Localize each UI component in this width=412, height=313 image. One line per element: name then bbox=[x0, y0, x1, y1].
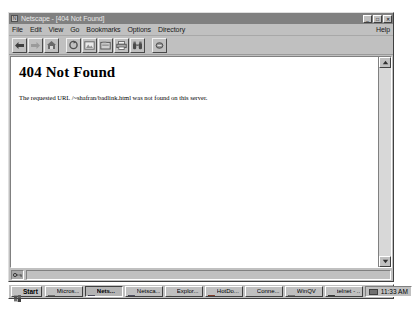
netscape-icon: N bbox=[88, 288, 95, 295]
menu-item-help[interactable]: Help bbox=[376, 26, 390, 34]
browser-window: N Netscape - [404 Not Found] _ □ ✕ File … bbox=[8, 12, 394, 282]
scroll-up-arrow-icon bbox=[382, 60, 389, 65]
open-button[interactable] bbox=[98, 38, 113, 53]
broken-key-icon[interactable] bbox=[11, 270, 24, 280]
svg-text:N: N bbox=[90, 295, 94, 297]
word-icon: W bbox=[48, 288, 55, 295]
stop-icon bbox=[154, 41, 165, 50]
winqvt-icon bbox=[288, 288, 295, 295]
minimize-button[interactable]: _ bbox=[363, 15, 372, 23]
menu-item-view[interactable]: View bbox=[49, 26, 64, 34]
window-title: Netscape - [404 Not Found] bbox=[21, 15, 363, 23]
hotdog-icon bbox=[208, 288, 215, 295]
close-button[interactable]: ✕ bbox=[383, 15, 392, 23]
back-button[interactable] bbox=[12, 38, 27, 53]
page-canvas: 404 Not Found The requested URL /~shafra… bbox=[11, 57, 378, 267]
telnet-icon bbox=[328, 288, 335, 295]
home-button[interactable] bbox=[44, 38, 59, 53]
svg-text:N: N bbox=[130, 295, 134, 297]
task-button-label: WinQV bbox=[297, 288, 316, 295]
scroll-down-arrow-icon bbox=[382, 259, 389, 264]
forward-button[interactable] bbox=[28, 38, 43, 53]
scroll-down-button[interactable] bbox=[379, 256, 391, 267]
print-button[interactable] bbox=[114, 38, 129, 53]
scrollbar-track[interactable] bbox=[379, 68, 391, 256]
task-button-connection[interactable]: Conne... bbox=[245, 286, 283, 297]
svg-text:W: W bbox=[49, 295, 54, 297]
taskbar: Start W Micros... N Nets... N Netsca... … bbox=[8, 284, 394, 299]
task-button-hotdog[interactable]: HotDo... bbox=[205, 286, 243, 297]
task-button-label: Micros... bbox=[57, 288, 80, 295]
maximize-button[interactable]: □ bbox=[373, 15, 382, 23]
modem-icon[interactable] bbox=[369, 289, 378, 295]
menu-item-bookmarks[interactable]: Bookmarks bbox=[86, 26, 120, 34]
forward-arrow-icon bbox=[30, 41, 41, 50]
task-button-telnet[interactable]: telnet - ... bbox=[325, 286, 363, 297]
menu-item-edit[interactable]: Edit bbox=[30, 26, 42, 34]
task-button-label: telnet - ... bbox=[337, 288, 360, 295]
printer-icon bbox=[116, 41, 127, 50]
task-button-label: Explor... bbox=[177, 288, 199, 295]
page-body-text: The requested URL /~shafran/badlink.html… bbox=[19, 93, 370, 102]
windows-logo-icon bbox=[14, 288, 21, 295]
home-icon bbox=[46, 40, 57, 50]
clock[interactable]: 11:33 AM bbox=[381, 288, 408, 295]
start-button[interactable]: Start bbox=[11, 286, 42, 297]
window-controls: _ □ ✕ bbox=[363, 15, 392, 23]
menu-item-file[interactable]: File bbox=[12, 26, 23, 34]
task-button-label: Netsca... bbox=[137, 288, 160, 295]
reload-button[interactable] bbox=[66, 38, 81, 53]
menu-item-go[interactable]: Go bbox=[70, 26, 79, 34]
images-icon bbox=[84, 41, 95, 50]
stop-button[interactable] bbox=[152, 38, 167, 53]
title-bar[interactable]: N Netscape - [404 Not Found] _ □ ✕ bbox=[9, 13, 393, 24]
system-tray: 11:33 AM bbox=[365, 286, 412, 297]
task-button-label: Conne... bbox=[257, 288, 280, 295]
back-arrow-icon bbox=[14, 41, 25, 50]
task-button-word[interactable]: W Micros... bbox=[45, 286, 83, 297]
images-button[interactable] bbox=[82, 38, 97, 53]
navigation-toolbar bbox=[9, 36, 393, 55]
menu-item-options[interactable]: Options bbox=[127, 26, 150, 34]
task-button-explorer[interactable]: Explor... bbox=[165, 286, 203, 297]
netscape-icon: N bbox=[128, 288, 135, 295]
content-frame: 404 Not Found The requested URL /~shafra… bbox=[10, 56, 392, 268]
reload-icon bbox=[68, 40, 79, 50]
connection-icon bbox=[248, 288, 255, 295]
task-button-label: HotDo... bbox=[217, 288, 239, 295]
task-button-winqvt[interactable]: WinQV bbox=[285, 286, 323, 297]
status-text bbox=[26, 270, 391, 280]
find-button[interactable] bbox=[130, 38, 145, 53]
task-button-label: Nets... bbox=[97, 288, 115, 295]
start-label: Start bbox=[23, 288, 38, 295]
netscape-icon[interactable]: N bbox=[11, 15, 18, 22]
task-button-netscape-2[interactable]: N Netsca... bbox=[125, 286, 163, 297]
scroll-up-button[interactable] bbox=[379, 57, 391, 68]
content-outer: 404 Not Found The requested URL /~shafra… bbox=[9, 55, 393, 268]
page-title: 404 Not Found bbox=[19, 64, 370, 81]
task-button-netscape-active[interactable]: N Nets... bbox=[85, 286, 123, 297]
explorer-icon bbox=[168, 288, 175, 295]
binoculars-icon bbox=[132, 41, 143, 50]
open-icon bbox=[100, 41, 111, 50]
vertical-scrollbar[interactable] bbox=[378, 57, 391, 267]
status-bar bbox=[9, 268, 393, 281]
menu-item-directory[interactable]: Directory bbox=[158, 26, 185, 34]
menu-bar: File Edit View Go Bookmarks Options Dire… bbox=[9, 24, 393, 36]
